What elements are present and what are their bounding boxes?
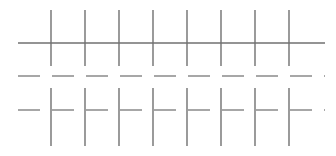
line-grid-pattern-figure: [0, 0, 336, 156]
figure-canvas: [0, 0, 336, 156]
